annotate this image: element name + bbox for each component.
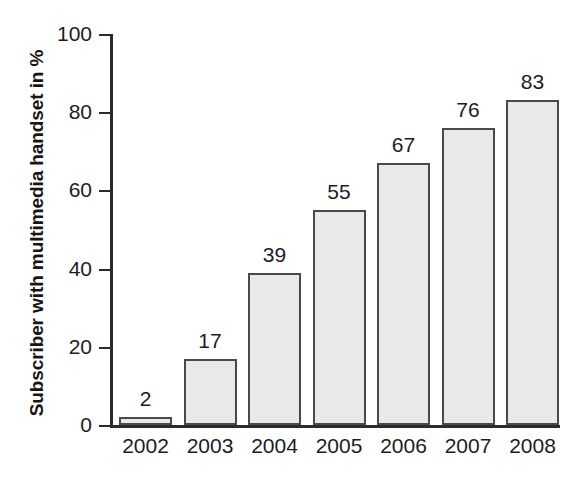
- x-tick-label: 2008: [502, 434, 563, 458]
- x-tick-label: 2002: [115, 434, 176, 458]
- bar: [119, 417, 172, 425]
- bar-value-label: 67: [377, 133, 430, 157]
- bar: [184, 359, 237, 425]
- bar-value-label: 17: [184, 329, 237, 353]
- y-tick-mark: [99, 34, 111, 36]
- bar-value-label: 2: [119, 387, 172, 411]
- bar: [313, 210, 366, 425]
- y-tick-mark: [99, 347, 111, 349]
- y-axis-line: [110, 34, 113, 425]
- x-tick-label: 2004: [244, 434, 305, 458]
- plot-area: 020406080100 2173955677683 2002200320042…: [110, 34, 560, 425]
- y-tick-mark: [99, 269, 111, 271]
- x-tick-label: 2006: [373, 434, 434, 458]
- bar-value-label: 83: [506, 70, 559, 94]
- bar-value-label: 39: [248, 243, 301, 267]
- y-tick-label: 40: [40, 257, 92, 281]
- bar: [506, 100, 559, 425]
- y-tick-label: 80: [40, 100, 92, 124]
- x-axis-line: [110, 425, 560, 428]
- y-tick-label: 20: [40, 335, 92, 359]
- x-tick-label: 2005: [309, 434, 370, 458]
- x-tick-label: 2007: [438, 434, 499, 458]
- bar: [377, 163, 430, 425]
- y-tick-label: 60: [40, 178, 92, 202]
- y-tick-label: 0: [40, 413, 92, 437]
- y-tick-label: 100: [40, 22, 92, 46]
- y-tick-mark: [99, 112, 111, 114]
- bar-chart: Subscriber with multimedia handset in % …: [0, 0, 578, 486]
- bar: [248, 273, 301, 425]
- x-tick-label: 2003: [180, 434, 241, 458]
- y-tick-mark: [99, 425, 111, 427]
- bar-value-label: 76: [442, 98, 495, 122]
- bar: [442, 128, 495, 425]
- bar-value-label: 55: [313, 180, 366, 204]
- y-tick-mark: [99, 190, 111, 192]
- y-axis-title: Subscriber with multimedia handset in %: [26, 28, 48, 438]
